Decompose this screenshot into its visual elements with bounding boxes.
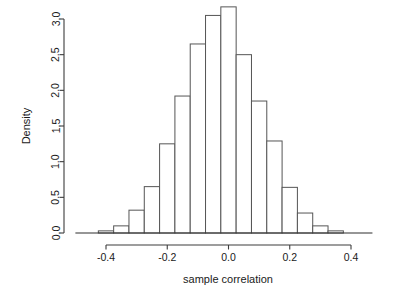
histogram-figure: 0.00.51.01.52.02.53.0 -0.4-0.20.00.20.4 …	[0, 0, 404, 296]
y-axis-tick-label: 0.5	[50, 190, 62, 205]
histogram-bar	[175, 96, 190, 233]
y-axis-tick-label: 2.0	[50, 83, 62, 98]
x-axis-tick-label: -0.2	[158, 251, 176, 263]
y-axis-tick-label: 2.5	[50, 47, 62, 62]
histogram-bar	[297, 213, 312, 233]
x-axis: -0.4-0.20.00.20.4	[97, 245, 358, 263]
histogram-bar	[190, 44, 205, 233]
histogram-bar	[144, 187, 159, 233]
y-axis-tick-label: 3.0	[50, 12, 62, 27]
histogram-bars	[98, 7, 343, 233]
y-axis-tick-label: 1.0	[50, 154, 62, 169]
x-axis-tick-label: 0.0	[221, 251, 236, 263]
y-axis: 0.00.51.01.52.02.53.0	[50, 12, 65, 241]
histogram-bar	[206, 15, 221, 233]
histogram-bar	[114, 226, 129, 233]
y-axis-tick-label: 1.5	[50, 119, 62, 134]
histogram-bar	[129, 210, 144, 233]
x-axis-tick-label: 0.4	[344, 251, 359, 263]
y-axis-tick-label: 0.0	[50, 226, 62, 241]
histogram-bar	[313, 226, 328, 233]
x-axis-tick-label: -0.4	[97, 251, 115, 263]
histogram-bar	[236, 55, 251, 233]
histogram-bar	[221, 7, 236, 233]
x-axis-title: sample correlation	[183, 273, 273, 285]
y-axis-title: Density	[20, 107, 32, 144]
histogram-bar	[160, 144, 175, 233]
plot-canvas: 0.00.51.01.52.02.53.0 -0.4-0.20.00.20.4 …	[0, 0, 404, 296]
x-axis-tick-label: 0.2	[282, 251, 297, 263]
histogram-bar	[282, 187, 297, 233]
histogram-bar	[267, 141, 282, 233]
histogram-bar	[251, 101, 266, 233]
